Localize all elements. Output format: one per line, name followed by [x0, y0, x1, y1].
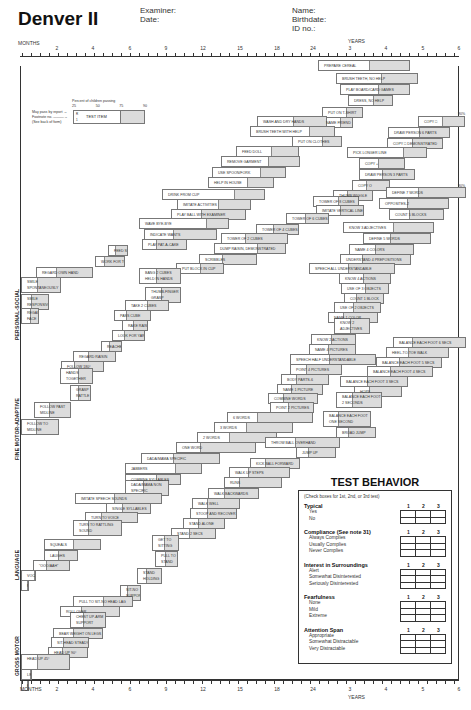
test-item-label: REGARD FACE	[22, 310, 39, 322]
top-axis-tick-label: 6	[458, 45, 461, 51]
test-item-language: "OOO/AAH"	[33, 560, 70, 571]
bottom-axis-tick-mark	[310, 681, 311, 684]
test-item-label: THUMB-FINGER GRASP	[146, 289, 181, 301]
behavior-checkbox[interactable]	[431, 615, 446, 622]
patient-block: Name: Birthdate: ID no.:	[292, 6, 326, 33]
legend-tick-75: 75	[119, 104, 123, 109]
test-item-gross-motor: PULL TO STAND	[155, 551, 178, 567]
test-item-label: 6 WORDS	[228, 416, 250, 420]
test-item-label: HEAD UP 90°	[49, 651, 76, 655]
behavior-checkbox[interactable]	[401, 647, 416, 654]
behavior-checkbox[interactable]	[416, 582, 431, 589]
test-item-label: KNOW 2 ACTIONS	[312, 338, 348, 342]
test-item-label: BRUSH TEETH WITH HELP	[251, 130, 302, 134]
test-item-label: RUNS	[225, 481, 240, 485]
test-item-fine-motor: PICK LONGER LINE	[347, 147, 427, 158]
behavior-checkbox[interactable]	[431, 647, 446, 654]
test-item-label: PULL TO STAND	[156, 553, 178, 565]
test-item-label: VOCALIZES	[22, 574, 36, 578]
test-item-label: GRASP RATTLE	[71, 387, 91, 399]
behavior-checkbox[interactable]	[401, 517, 416, 524]
bottom-axis-tick-mark	[436, 681, 437, 684]
legend-percent-ticks: 25 50 75 90	[72, 104, 147, 109]
bottom-axis-tick-label: 5	[422, 686, 425, 692]
examiner-label: Examiner:	[140, 6, 176, 15]
top-axis-tick-label: 4	[92, 45, 95, 51]
test-number-1: 1	[407, 529, 410, 535]
test-item-personal-social: REGARD FACE	[21, 308, 39, 324]
test-item-personal-social: PLAY BOARD/CARD GAMES	[340, 84, 410, 95]
behavior-checkbox[interactable]	[416, 615, 431, 622]
behavior-checkbox[interactable]	[431, 582, 446, 589]
test-item-label: INDICATE WANTS	[145, 233, 180, 237]
bottom-axis-tick-mark	[211, 681, 212, 684]
legend-may-pass: May pass by report →	[32, 110, 67, 115]
bottom-axis-tick-label: 6	[129, 686, 132, 692]
bottom-axis-tick-mark	[148, 681, 149, 684]
test-item-label: TOWER OF 8 CUBES	[314, 200, 355, 204]
test-number-headers: 123	[401, 529, 446, 535]
behavior-checkbox[interactable]	[401, 615, 416, 622]
bottom-axis-tick-label: 3	[349, 686, 352, 692]
bottom-axis-tick-label: 12	[200, 686, 206, 692]
test-item-label: SMILE SPONTANEOUSLY	[22, 279, 61, 291]
test-item-label: USE OF 3 OBJECTS	[342, 287, 381, 291]
test-item-language: TURN TO RATTLING SOUND	[73, 520, 122, 536]
date-label: Date:	[140, 15, 176, 24]
test-item-language: DADA/MAMA NON SPECIFIC	[125, 480, 169, 496]
test-item-label: COPY □	[419, 120, 437, 124]
behavior-checkbox[interactable]	[401, 582, 416, 589]
test-item-language: KNOW 3 ADJECTIVES	[343, 222, 434, 233]
test-item-label: "OOO/AAH"	[34, 564, 58, 568]
test-item-language: OPPOSITES-2	[379, 198, 449, 209]
bottom-axis-tick-mark	[427, 681, 428, 684]
behavior-checkbox[interactable]	[416, 550, 431, 557]
test-number-1: 1	[407, 503, 410, 509]
test-number-2: 2	[422, 627, 425, 633]
test-item-label: TOWER OF 2 CUBES	[222, 237, 263, 241]
test-behavior-checkbox-grid	[400, 634, 446, 655]
percentile-shading	[369, 61, 410, 70]
test-item-label: SIT-HEAD STEADY	[52, 641, 89, 645]
test-item-language: DEFINE 7 WORDS	[386, 187, 466, 198]
percentile-shading	[200, 443, 255, 452]
bottom-axis-tick-mark	[112, 681, 113, 684]
bottom-axis-tick-mark	[274, 681, 275, 684]
test-behavior-checkbox-grid	[400, 510, 446, 524]
test-item-language: DEFINE 5 WORDS	[363, 233, 431, 244]
bottom-axis-tick-mark	[103, 681, 104, 684]
test-item-label: LAUGHS	[45, 554, 65, 558]
test-item-label: DADA/MAMA NON SPECIFIC	[126, 482, 169, 494]
bottom-axis-tick-label: 2	[56, 686, 59, 692]
test-item-fine-motor: LOOK FOR YARN	[112, 330, 145, 341]
test-item-label: HANDS TOGETHER	[61, 370, 93, 382]
test-item-label: COMBINE WORDS	[269, 397, 306, 401]
test-item-label: FOLLOW TO MIDLINE	[22, 421, 59, 433]
test-item-label: RAKE RAISIN	[123, 324, 148, 328]
test-item-label: TURN TO VOICE	[86, 516, 119, 520]
behavior-checkbox[interactable]	[416, 517, 431, 524]
test-item-label: DEFINE 7 WORDS	[387, 191, 423, 195]
test-item-label: THUMB WIGGLE	[334, 194, 367, 198]
legend-see-back: (See back of form)	[32, 120, 62, 125]
test-item-label: PICK LONGER LINE	[348, 151, 387, 155]
test-item-personal-social: WORK FOR TOY	[95, 256, 125, 267]
behavior-checkbox[interactable]	[431, 550, 446, 557]
bottom-axis-tick-mark	[175, 681, 176, 684]
bottom-axis-tick-mark	[373, 681, 374, 684]
behavior-checkbox[interactable]	[431, 517, 446, 524]
test-item-label: KICK BALL FORWARD	[251, 462, 293, 466]
test-item-personal-social: DRESS, NO HELP	[348, 95, 393, 106]
behavior-checkbox[interactable]	[416, 647, 431, 654]
test-item-gross-motor: BROAD JUMP	[336, 427, 376, 438]
percentile-shading	[257, 413, 312, 422]
behavior-checkbox[interactable]	[401, 550, 416, 557]
test-item-fine-motor: FOLLOW PAST MIDLINE	[34, 402, 71, 418]
name-label: Name:	[292, 6, 326, 15]
bottom-axis-tick-mark	[139, 681, 140, 684]
test-item-fine-motor: BANG 2 CUBES HELD IN HANDS	[139, 268, 181, 284]
section-personal-social: PERSONAL-SOCIAL	[14, 289, 20, 340]
test-item-label: NAME 4 PICTURES	[310, 348, 348, 352]
test-item-label: KNOW 2 ADJECTIVES	[335, 320, 370, 332]
test-item-label: STAND ALONE	[184, 522, 214, 526]
